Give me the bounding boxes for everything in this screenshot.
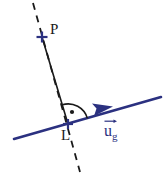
diagram-canvas	[0, 0, 166, 176]
right-angle-dot-icon	[70, 110, 74, 114]
geometry-figure: P L ug	[0, 0, 166, 176]
vector-ug-stack: ug	[104, 118, 118, 139]
segment-p-to-l	[42, 37, 68, 124]
vector-u-letter: u	[104, 118, 112, 139]
point-p-marker-icon	[37, 32, 48, 43]
point-p-label: P	[50, 22, 58, 37]
vector-u-subscript: g	[112, 131, 118, 142]
point-l-label: L	[61, 128, 70, 143]
vector-ug-label: ug	[104, 118, 118, 139]
